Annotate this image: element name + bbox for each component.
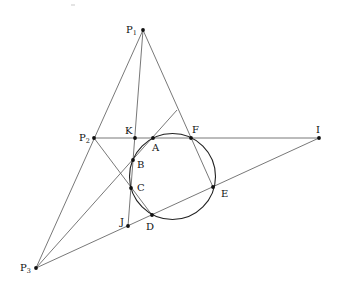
line-p3-ba xyxy=(36,110,177,268)
geometry-diagram: P1P2P3KAFIBCEDJ xyxy=(0,0,343,303)
labeled-points: P1P2P3KAFIBCEDJ xyxy=(20,24,321,275)
point-dot xyxy=(92,136,96,140)
point-dot xyxy=(141,28,145,32)
point-dot xyxy=(211,185,215,189)
point-label: A xyxy=(151,142,160,153)
point-dot xyxy=(150,213,154,217)
line-p1-e xyxy=(143,30,213,187)
point-label: E xyxy=(221,188,228,199)
point-label: P2 xyxy=(79,132,90,145)
point-label: P1 xyxy=(126,24,137,37)
point-p1: P1 xyxy=(126,24,145,37)
line-p2-d xyxy=(94,138,152,215)
point-f: F xyxy=(189,124,199,140)
point-label: P3 xyxy=(20,262,31,275)
point-dot xyxy=(151,136,155,140)
point-label: B xyxy=(137,159,144,170)
line-p3-i xyxy=(36,138,319,268)
point-dot xyxy=(189,136,193,140)
point-a: A xyxy=(151,136,160,153)
point-dot xyxy=(126,224,130,228)
point-label: D xyxy=(146,221,154,232)
point-dot xyxy=(131,158,135,162)
circle-conic xyxy=(130,134,216,220)
point-e: E xyxy=(211,185,228,199)
point-label: I xyxy=(316,124,320,135)
point-dot xyxy=(133,136,137,140)
point-dot xyxy=(34,266,38,270)
point-p3: P3 xyxy=(20,262,38,275)
point-label: C xyxy=(137,182,145,193)
point-label: J xyxy=(119,216,124,227)
point-dot xyxy=(317,136,321,140)
point-dot xyxy=(129,186,133,190)
point-i: I xyxy=(316,124,321,140)
point-p2: P2 xyxy=(79,132,96,145)
line-p1-p3 xyxy=(36,30,143,268)
construction-lines xyxy=(36,30,319,268)
point-label: F xyxy=(192,124,199,135)
point-label: K xyxy=(125,125,133,136)
